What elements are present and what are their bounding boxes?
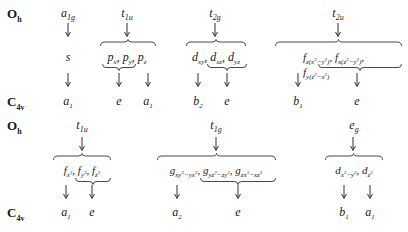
c4v-irrep-a2: a2	[172, 205, 182, 221]
arrow-down-icon	[173, 185, 181, 199]
arrow-down-icon	[366, 185, 374, 199]
arrow-down-icon	[78, 137, 86, 151]
arrow-down-icon	[62, 185, 70, 199]
arrow-down-icon	[123, 23, 131, 37]
underbrace-px-py	[102, 64, 136, 71]
group-label-oh-top: Oh	[7, 6, 22, 24]
orbitals-g-t1g: gxy3−yx3, gyz3−zy3, gzx3−xz3	[170, 164, 262, 179]
underbrace-dxz-dyz	[207, 64, 247, 71]
c4v-irrep-e: e	[235, 205, 240, 220]
overbrace-d-eg	[325, 153, 383, 161]
arrow-down-icon	[194, 73, 202, 87]
irrep-t2u: t2u	[332, 6, 343, 22]
irrep-eg: eg	[349, 118, 358, 134]
irrep-t1u: t1u	[76, 118, 87, 134]
overbrace-d	[186, 39, 246, 47]
overbrace-p	[100, 39, 156, 47]
c4v-irrep-b1: b1	[293, 94, 303, 110]
irrep-t1g: t1g	[210, 118, 221, 134]
overbrace-f-t1u	[53, 153, 111, 161]
c4v-irrep-a1: a1	[63, 94, 73, 110]
orbitals-d-eg: dx2−y2, dz2	[335, 164, 373, 179]
arrow-down-icon	[144, 73, 152, 87]
orbital-s: s	[66, 50, 71, 65]
irrep-t1u: t1u	[121, 6, 132, 22]
underbrace-fx-fy	[318, 64, 402, 71]
overbrace-g	[157, 153, 276, 161]
c4v-irrep-e: e	[116, 94, 121, 109]
underbrace-gyz-gzx	[200, 178, 276, 185]
c4v-irrep-a1: a1	[365, 205, 375, 221]
c4v-irrep-e: e	[89, 205, 94, 220]
arrow-down-icon	[223, 73, 231, 87]
overbrace-f-t2u	[275, 39, 402, 47]
arrow-down-icon	[340, 185, 348, 199]
c4v-irrep-b2: b2	[193, 94, 203, 110]
underbrace-fy3-fz3	[75, 178, 111, 185]
arrow-down-icon	[211, 23, 219, 37]
c4v-irrep-e: e	[354, 94, 359, 109]
arrow-down-icon	[88, 185, 96, 199]
irrep-t2g: t2g	[209, 6, 220, 22]
c4v-irrep-a1: a1	[143, 94, 153, 110]
c4v-irrep-e: e	[224, 94, 229, 109]
group-label-c4v-top: C4v	[7, 94, 24, 112]
arrow-down-icon	[294, 73, 302, 87]
group-label-c4v-bottom: C4v	[7, 205, 24, 223]
arrow-down-icon	[334, 23, 342, 37]
arrow-down-icon	[64, 23, 72, 37]
c4v-irrep-b1: b1	[339, 205, 349, 221]
irrep-a1g: a1g	[61, 6, 75, 22]
arrow-down-icon	[349, 137, 357, 151]
c4v-irrep-a1: a1	[61, 205, 71, 221]
arrow-down-icon	[64, 73, 72, 87]
arrow-down-icon	[234, 185, 242, 199]
arrow-down-icon	[212, 137, 220, 151]
orbitals-f-t1u: fx3, fy3, fz3	[64, 164, 101, 179]
arrow-down-icon	[353, 73, 361, 87]
arrow-down-icon	[115, 73, 123, 87]
group-label-oh-bottom: Oh	[7, 118, 22, 136]
